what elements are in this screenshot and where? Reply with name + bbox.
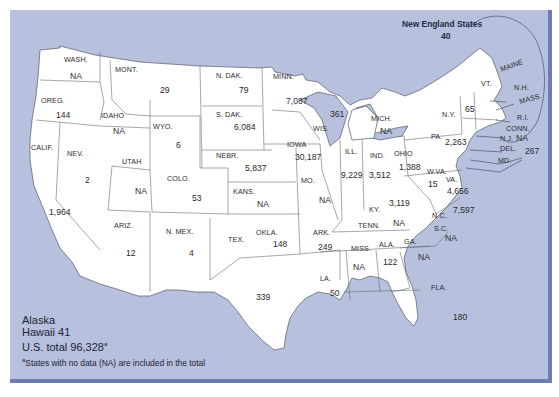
- state-label-nev: NEV.: [67, 149, 84, 158]
- state-label-mich: MICH.: [371, 114, 392, 123]
- state-value-sdak: 6,084: [234, 122, 256, 132]
- state-label-md: MD.: [498, 156, 511, 165]
- state-label-calif: CALIF.: [31, 143, 53, 152]
- state-value-okla: 148: [273, 239, 287, 249]
- state-label-iowa: IOWA: [287, 140, 306, 149]
- state-label-ill: ILL.: [345, 147, 357, 156]
- state-label-oreg: OREG.: [41, 96, 65, 105]
- state-label-sc: S.C.: [434, 224, 448, 233]
- state-label-nebr: NEBR.: [216, 151, 238, 160]
- state-value-wva: 15: [428, 179, 438, 189]
- footnote: aStates with no data (NA) are included i…: [22, 357, 205, 368]
- state-label-ga: GA.: [404, 237, 417, 246]
- state-value-sc: NA: [445, 233, 457, 243]
- state-value-nc: 7,597: [453, 205, 475, 215]
- state-label-miss: MISS.: [351, 244, 371, 253]
- state-label-tenn: TENN.: [358, 221, 380, 230]
- state-value-utah: NA: [135, 186, 147, 196]
- state-value-tenn: NA: [393, 218, 405, 228]
- state-label-ariz: ARIZ.: [114, 221, 133, 230]
- state-value-ark: 249: [318, 242, 332, 252]
- state-value-nev: 2: [85, 175, 90, 185]
- new-england-title: New England States: [402, 19, 482, 29]
- state-label-pa: PA.: [431, 132, 442, 141]
- state-label-va: VA.: [446, 175, 457, 184]
- state-value-nj: NA: [516, 133, 528, 143]
- state-label-wash: WASH.: [64, 55, 88, 64]
- state-value-wis: 361: [330, 109, 344, 119]
- state-label-ala: ALA.: [379, 240, 395, 249]
- state-value-ariz: 12: [126, 248, 136, 258]
- new-england-value: 40: [441, 31, 451, 41]
- state-label-wis: WIS.: [313, 124, 329, 133]
- legend-us-total-text: U.S. total 96,328: [22, 341, 104, 353]
- state-label-minn: MINN.: [273, 72, 294, 81]
- state-value-idaho: NA: [113, 126, 125, 136]
- legend-us-total: U.S. total 96,328a: [22, 338, 107, 353]
- footnote-text: States with no data (NA) are included in…: [25, 358, 205, 368]
- state-label-sdak: S. DAK.: [216, 110, 242, 119]
- legend-hawaii: Hawaii 41: [22, 326, 70, 339]
- state-value-minn: 7,087: [286, 96, 308, 106]
- state-label-nc: N.C.: [432, 211, 447, 220]
- state-label-ky: KY.: [369, 205, 380, 214]
- state-value-nmex: 4: [189, 248, 194, 258]
- state-value-oreg: 144: [56, 110, 70, 120]
- state-value-la: 50: [330, 288, 340, 298]
- state-value-ill: 9,229: [341, 170, 363, 180]
- us-landmass: [30, 46, 506, 350]
- state-label-wva: W.VA.: [427, 167, 447, 176]
- state-label-colo: COLO.: [167, 174, 190, 183]
- state-value-ky: 3,119: [389, 198, 410, 208]
- state-label-ind: IND.: [370, 151, 385, 160]
- state-label-idaho: IDAHO: [101, 111, 124, 120]
- legend-total-marker: a: [104, 341, 107, 347]
- state-label-ri: R.I.: [517, 113, 529, 122]
- state-value-del-md: 267: [525, 146, 539, 156]
- state-value-colo: 53: [192, 193, 202, 203]
- state-value-ohio: 1,388: [399, 162, 421, 172]
- state-value-mich: NA: [380, 126, 392, 136]
- state-value-ind: 3,512: [369, 170, 391, 180]
- state-value-ny: 65: [465, 104, 475, 114]
- state-label-la: LA.: [320, 274, 331, 283]
- state-value-fla: 180: [453, 312, 467, 322]
- state-label-fla: FLA.: [431, 283, 447, 292]
- state-value-tex: 339: [256, 292, 270, 302]
- state-value-iowa: 30,187: [295, 152, 321, 162]
- state-label-nj: N.J.: [500, 134, 513, 143]
- legend-alaska: Alaska: [22, 314, 55, 327]
- state-label-vt: VT.: [481, 79, 492, 88]
- state-value-kans: NA: [257, 199, 269, 209]
- state-label-conn: CONN.: [506, 124, 530, 133]
- state-value-va: 4,656: [447, 186, 469, 196]
- state-label-kans: KANS.: [233, 187, 255, 196]
- state-label-nh: N.H.: [514, 83, 529, 92]
- state-value-wyo: 6: [176, 140, 181, 150]
- state-value-mo: NA: [319, 195, 331, 205]
- state-value-pa: 2,263: [445, 137, 467, 147]
- state-label-mont: MONT.: [115, 65, 138, 74]
- state-label-del: DEL.: [500, 144, 516, 153]
- state-label-nmex: N. MEX.: [166, 227, 193, 236]
- state-label-ohio: OHIO: [394, 149, 413, 158]
- state-value-wash: NA: [70, 71, 82, 81]
- state-label-wyo: WYO.: [153, 122, 173, 131]
- state-value-mont: 29: [160, 85, 170, 95]
- state-value-calif: 1,964: [49, 207, 71, 217]
- state-value-miss: NA: [353, 262, 365, 272]
- state-label-mo: MO.: [301, 176, 315, 185]
- state-value-ndak: 79: [239, 85, 249, 95]
- state-label-ark: ARK.: [313, 228, 330, 237]
- state-label-ny: N.Y.: [442, 110, 455, 119]
- state-value-ala: 122: [383, 257, 397, 267]
- state-value-nebr: 5,837: [245, 163, 267, 173]
- state-value-ga: NA: [418, 252, 430, 262]
- state-label-tex: TEX.: [228, 235, 244, 244]
- state-label-ndak: N. DAK.: [216, 71, 243, 80]
- state-label-okla: OKLA.: [256, 228, 278, 237]
- state-label-utah: UTAH: [122, 157, 141, 166]
